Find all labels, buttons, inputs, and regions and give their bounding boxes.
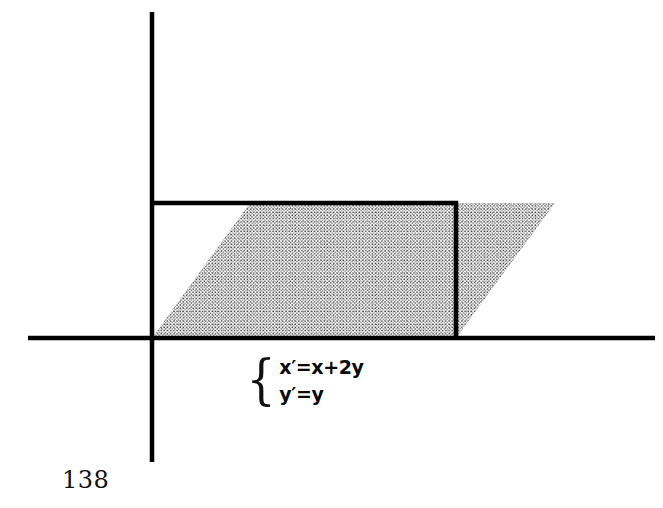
book-page: { x′=x+2y y′=y 138 — [0, 0, 663, 508]
shear-transformation-figure — [0, 0, 663, 508]
equation-y-prime: y′=y — [279, 383, 363, 405]
equation-lines: x′=x+2y y′=y — [279, 356, 363, 405]
left-brace: { — [247, 353, 276, 407]
transformation-equations: { x′=x+2y y′=y — [244, 353, 364, 407]
equation-x-prime: x′=x+2y — [279, 356, 363, 378]
sheared-parallelogram-texture-overlay — [152, 203, 555, 338]
page-number: 138 — [62, 466, 109, 494]
